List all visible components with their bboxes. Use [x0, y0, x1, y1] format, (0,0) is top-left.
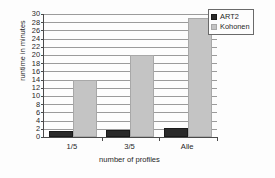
bar-kohonen-1-5	[73, 80, 97, 137]
legend-item-kohonen[interactable]: Kohonen	[211, 22, 250, 32]
chart-legend: ART2Kohonen	[208, 9, 254, 35]
legend-swatch-icon	[211, 24, 217, 30]
bar-art2-1-5	[49, 131, 73, 137]
legend-item-art2[interactable]: ART2	[211, 12, 250, 22]
x-axis-category-separator	[159, 137, 160, 141]
y-axis-tick-label: 28	[18, 19, 40, 26]
x-axis-category-separator	[217, 137, 218, 141]
y-axis-tick-label: 18	[18, 60, 40, 67]
legend-item-label: Kohonen	[220, 23, 250, 31]
y-axis-tick-label: 26	[18, 27, 40, 34]
y-axis-tick-label: 8	[18, 101, 40, 108]
y-axis-tick-label: 10	[18, 92, 40, 99]
bar-chart: runtime in minutes 302826242220181614121…	[0, 0, 275, 178]
y-axis-tick-label: 20	[18, 51, 40, 58]
x-axis-tick-labels: 1/53/5Alle	[43, 142, 216, 154]
x-axis-tick-label: Alle	[158, 142, 216, 151]
y-axis-tick-label: 30	[18, 10, 40, 17]
plot-area	[43, 14, 217, 138]
y-axis-tick-labels: 302826242220181614121086420	[18, 8, 40, 142]
y-axis-tick-label: 6	[18, 109, 40, 116]
legend-item-label: ART2	[220, 13, 239, 21]
legend-swatch-icon	[211, 14, 217, 20]
x-axis-tick-label: 1/5	[43, 142, 101, 151]
y-axis-tick-mark	[41, 137, 44, 138]
y-axis-tick-label: 16	[18, 68, 40, 75]
bar-group	[44, 14, 102, 137]
bar-art2-3-5	[106, 130, 130, 137]
bar-art2-Alle	[164, 128, 188, 137]
x-axis-category-separator	[102, 137, 103, 141]
x-axis-title: number of profiles	[43, 155, 216, 164]
bar-group	[102, 14, 160, 137]
bar-kohonen-Alle	[188, 18, 212, 137]
bar-kohonen-3-5	[130, 55, 154, 137]
x-axis-tick-label: 3/5	[101, 142, 159, 151]
y-axis-tick-label: 0	[18, 133, 40, 140]
